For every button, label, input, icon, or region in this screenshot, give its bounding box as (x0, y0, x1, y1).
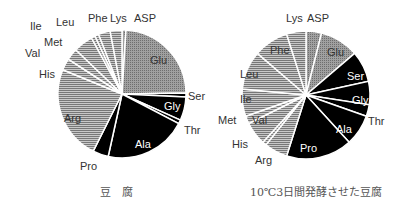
label-ser: Ser (347, 70, 364, 82)
label-ala: Ala (336, 123, 353, 135)
label-his: His (39, 68, 55, 80)
label-lys: Lys (110, 12, 127, 24)
label-pro: Pro (80, 160, 97, 172)
label-gly: Gly (352, 94, 369, 106)
label-gly: Gly (164, 100, 181, 112)
label-pro: Pro (300, 142, 317, 154)
pie-left (58, 30, 186, 158)
label-met: Met (218, 114, 236, 126)
label-phe: Phe (88, 12, 108, 24)
label-val: Val (25, 47, 40, 59)
label-ile: Ile (240, 93, 252, 105)
label-val: Val (252, 114, 267, 126)
label-ser: Ser (188, 90, 205, 102)
label-thr: Thr (184, 124, 201, 136)
label-arg: Arg (255, 154, 272, 166)
label-lys: Lys (286, 12, 303, 24)
label-ile: Ile (30, 20, 42, 32)
pie-chart-tofu: ASPLysPheLeuIleMetValHisArgProGluSerGlyT… (0, 0, 404, 209)
pie-right (242, 31, 370, 159)
label-ala: Ala (135, 138, 152, 150)
label-glu: Glu (150, 54, 167, 66)
label-leu: Leu (56, 16, 74, 28)
label-asp: ASP (307, 12, 329, 24)
label-glu: Glu (327, 46, 344, 58)
label-asp: ASP (134, 12, 156, 24)
label-met: Met (44, 36, 62, 48)
caption-left: 豆 腐 (100, 183, 133, 199)
label-arg: Arg (64, 112, 81, 124)
label-his: His (232, 138, 248, 150)
label-leu: Leu (240, 68, 258, 80)
label-thr: Thr (368, 115, 385, 127)
caption-right: 10℃3日間発酵させた豆腐 (250, 183, 382, 199)
label-phe: Phe (270, 44, 290, 56)
